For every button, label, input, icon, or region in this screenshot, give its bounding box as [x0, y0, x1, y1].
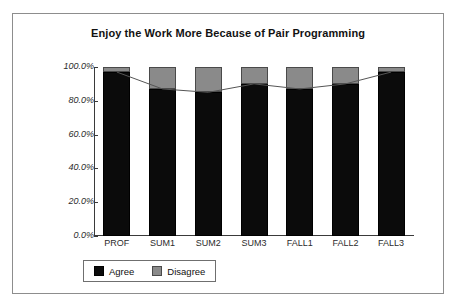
- x-tick-label-sum2: SUM2: [185, 238, 231, 248]
- bar-group: [378, 67, 405, 236]
- bar-segment-agree: [103, 72, 130, 236]
- bar-segment-agree: [332, 84, 359, 236]
- bar-segment-disagree: [332, 67, 359, 84]
- bar-group: [195, 67, 222, 236]
- bar-segment-disagree: [241, 67, 268, 84]
- x-tick-label-prof: PROF: [94, 238, 140, 248]
- bar-segment-agree: [149, 89, 176, 236]
- y-tick-mark: [94, 236, 98, 237]
- bar-group: [241, 67, 268, 236]
- legend-label: Disagree: [167, 266, 205, 277]
- y-tick-label: 0.0%: [46, 230, 94, 240]
- x-tick-label-fall3: FALL3: [368, 238, 414, 248]
- chart-figure: Enjoy the Work More Because of Pair Prog…: [0, 0, 457, 307]
- bar-segment-disagree: [149, 67, 176, 89]
- bar-segment-agree: [241, 84, 268, 236]
- x-tick-label-sum1: SUM1: [140, 238, 186, 248]
- x-tick-label-sum3: SUM3: [231, 238, 277, 248]
- legend-label: Agree: [109, 266, 134, 277]
- bar-group: [103, 67, 130, 236]
- x-tick-label-fall1: FALL1: [277, 238, 323, 248]
- y-tick-label: 40.0%: [46, 162, 94, 172]
- bar-segment-disagree: [195, 67, 222, 92]
- gray-square-icon: [152, 266, 162, 276]
- plot-area: [94, 67, 414, 236]
- bar-group: [149, 67, 176, 236]
- x-axis: PROFSUM1SUM2SUM3FALL1FALL2FALL3: [94, 238, 414, 254]
- bar-group: [286, 67, 313, 236]
- y-tick-label: 20.0%: [46, 196, 94, 206]
- y-tick-label: 100.0%: [46, 61, 94, 71]
- y-axis: 100.0%80.0%60.0%40.0%20.0%0.0%: [40, 67, 94, 236]
- legend-entry-agree[interactable]: Agree: [94, 266, 134, 277]
- bar-segment-agree: [286, 89, 313, 236]
- black-square-icon: [94, 266, 104, 276]
- chart-title: Enjoy the Work More Because of Pair Prog…: [12, 27, 444, 39]
- chart-legend: AgreeDisagree: [83, 260, 216, 282]
- y-tick-label: 60.0%: [46, 129, 94, 139]
- bar-segment-agree: [195, 92, 222, 236]
- bar-segment-agree: [378, 72, 405, 236]
- bar-group: [332, 67, 359, 236]
- legend-entry-disagree[interactable]: Disagree: [152, 266, 205, 277]
- x-tick-label-fall2: FALL2: [323, 238, 369, 248]
- bar-segment-disagree: [286, 67, 313, 89]
- y-tick-label: 80.0%: [46, 95, 94, 105]
